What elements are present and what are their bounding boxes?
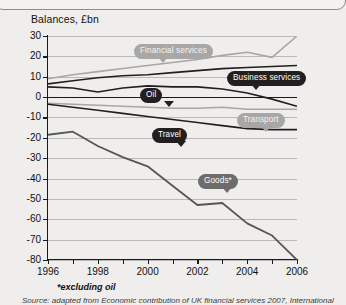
panel-top-border [0, 0, 346, 10]
y-tick-label--60: -60 [1, 213, 41, 224]
y-tick-label--20: -20 [1, 132, 41, 143]
callout-pointer [261, 126, 271, 132]
y-tick--50 [43, 199, 47, 200]
x-tick-1997 [73, 260, 74, 264]
y-tick-label--50: -50 [1, 193, 41, 204]
x-tick-2001 [173, 260, 174, 264]
y-tick--70 [43, 240, 47, 241]
y-tick-10 [43, 77, 47, 78]
callout-pointer [222, 187, 232, 193]
chart-title: Balances, £bn [31, 13, 99, 25]
y-tick-30 [43, 36, 47, 37]
y-tick--10 [43, 117, 47, 118]
callout-pointer [251, 84, 261, 90]
x-tick-label-1998: 1998 [78, 266, 118, 277]
callout-pointer [176, 141, 186, 147]
x-tick-2003 [222, 260, 223, 264]
y-tick-label-0: 0 [1, 91, 41, 102]
y-tick-label--70: -70 [1, 234, 41, 245]
y-tick-20 [43, 56, 47, 57]
callout-pointer [164, 101, 174, 107]
x-tick-2006 [297, 260, 298, 264]
callout-pointer [158, 57, 168, 63]
y-tick--20 [43, 138, 47, 139]
x-tick-label-2002: 2002 [177, 266, 217, 277]
x-tick-1998 [98, 260, 99, 264]
y-tick-label-10: 10 [1, 71, 41, 82]
y-tick-0 [43, 97, 47, 98]
x-tick-2005 [272, 260, 273, 264]
x-tick-2000 [148, 260, 149, 264]
chart-footnote: *excluding oil [57, 282, 116, 292]
y-tick-label-20: 20 [1, 50, 41, 61]
x-tick-1999 [123, 260, 124, 264]
x-tick-2002 [197, 260, 198, 264]
x-tick-label-2004: 2004 [227, 266, 267, 277]
y-axis-labels: 3020100-10-20-30-40-50-60-70-80 [0, 0, 41, 303]
y-tick-label--30: -30 [1, 152, 41, 163]
callout-financial-services: Financial services [134, 44, 213, 59]
y-tick--30 [43, 158, 47, 159]
chart-series-lines [48, 36, 297, 260]
chart-source: Source: adapted from Economic contributi… [22, 296, 334, 305]
callout-business-services: Business services [227, 71, 306, 86]
y-tick-label--40: -40 [1, 173, 41, 184]
x-tick-1996 [48, 260, 49, 264]
x-tick-label-2000: 2000 [128, 266, 168, 277]
x-tick-2004 [247, 260, 248, 264]
series-line-goods [48, 132, 297, 260]
x-tick-label-2006: 2006 [277, 266, 317, 277]
y-tick-label-30: 30 [1, 30, 41, 41]
callout-oil: Oil [140, 88, 162, 103]
y-tick-label--10: -10 [1, 111, 41, 122]
y-tick--80 [43, 260, 47, 261]
y-tick-label--80: -80 [1, 254, 41, 265]
y-tick--40 [43, 179, 47, 180]
x-tick-label-1996: 1996 [28, 266, 68, 277]
y-tick--60 [43, 219, 47, 220]
